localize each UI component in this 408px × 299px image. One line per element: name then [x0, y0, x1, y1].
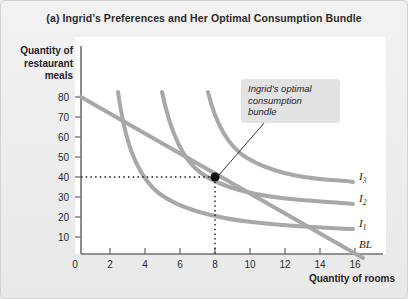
- curve-label-I1: I1: [359, 217, 366, 232]
- annotation-callout: Ingrid’s optimal consumption bundle: [241, 79, 340, 123]
- curve-label-BL-base: BL: [359, 238, 372, 250]
- optimal-bundle-point[interactable]: [210, 172, 219, 181]
- curve-label-I3: I3: [359, 170, 366, 185]
- curve-label-I2-sub: 2: [363, 198, 367, 207]
- annotation-leader-line: [219, 122, 265, 175]
- y-axis-ticks: [75, 97, 81, 237]
- figure-panel: (a) Ingrid’s Preferences and Her Optimal…: [0, 0, 408, 299]
- annotation-line-1: Ingrid’s optimal: [248, 83, 334, 95]
- curve-label-I3-sub: 3: [363, 176, 367, 185]
- chart-svg: [1, 1, 408, 299]
- curve-label-I2: I2: [359, 192, 366, 207]
- annotation-line-3: bundle: [248, 106, 334, 118]
- x-axis-ticks: [110, 248, 355, 254]
- curve-label-BL: BL: [359, 238, 372, 250]
- curve-label-I1-sub: 1: [363, 223, 367, 232]
- annotation-line-2: consumption: [248, 95, 334, 107]
